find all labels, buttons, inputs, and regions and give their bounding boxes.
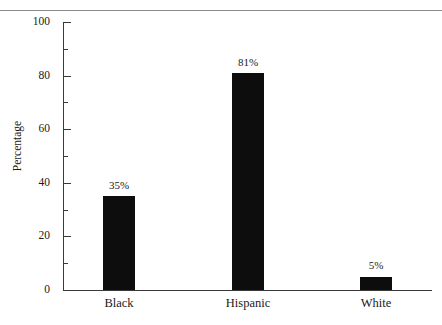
bar-white xyxy=(360,277,392,290)
y-tick-major xyxy=(64,236,71,237)
y-tick-label: 40 xyxy=(39,177,51,189)
y-tick-label: 60 xyxy=(39,123,51,135)
y-tick-major xyxy=(64,129,71,130)
y-tick-minor xyxy=(64,49,68,50)
y-tick-label: 0 xyxy=(44,284,50,296)
y-tick-minor xyxy=(64,210,68,211)
bar-black xyxy=(103,196,135,290)
bar-chart-figure: 100 80 60 40 20 0 Percentage 35% Black 8… xyxy=(0,0,442,325)
category-label-hispanic: Hispanic xyxy=(193,296,303,311)
bar-hispanic xyxy=(232,73,264,290)
category-label-white: White xyxy=(321,296,431,311)
y-tick-major xyxy=(64,76,71,77)
y-axis-title: Percentage xyxy=(11,96,23,196)
y-tick-major xyxy=(64,183,71,184)
y-tick-minor xyxy=(64,263,68,264)
y-tick-major xyxy=(64,290,71,291)
category-label-black: Black xyxy=(64,296,174,311)
x-axis-line xyxy=(63,290,432,291)
y-tick-label: 20 xyxy=(39,230,51,242)
y-tick-label: 100 xyxy=(33,16,50,28)
y-tick-minor xyxy=(64,156,68,157)
bar-value-white: 5% xyxy=(346,259,406,271)
y-tick-major xyxy=(64,22,71,23)
bar-value-hispanic: 81% xyxy=(218,56,278,68)
bar-value-black: 35% xyxy=(89,179,149,191)
y-tick-label: 80 xyxy=(39,70,51,82)
plot-area: 100 80 60 40 20 0 Percentage 35% Black 8… xyxy=(0,0,442,325)
y-tick-minor xyxy=(64,102,68,103)
